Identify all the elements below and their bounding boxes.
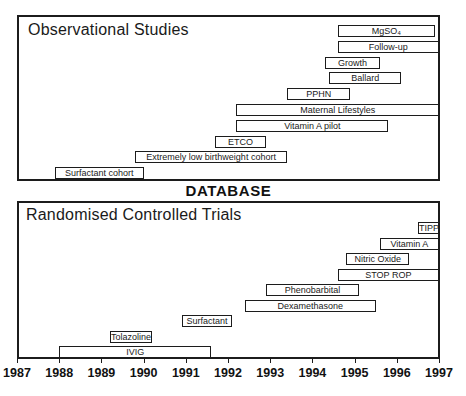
x-axis-tick <box>59 358 60 363</box>
timeline-bar-stop-rop: STOP ROP <box>338 269 439 281</box>
x-axis-tick <box>144 358 145 363</box>
x-tick-label: 1989 <box>87 366 115 380</box>
timeline-bar-maternal-lifestyles: Maternal Lifestyles <box>236 104 439 116</box>
randomised-controlled-trials-title: Randomised Controlled Trials <box>26 206 241 224</box>
timeline-bar-extremely-low-birthweight-cohort: Extremely low birthweight cohort <box>135 151 287 163</box>
x-axis-tick <box>312 358 313 363</box>
timeline-figure: Observational Studies DATABASE Randomise… <box>0 0 466 396</box>
x-axis-tick <box>101 358 102 363</box>
x-tick-label: 1995 <box>341 366 369 380</box>
x-tick-label: 1988 <box>45 366 73 380</box>
x-axis-tick <box>439 358 440 363</box>
timeline-bar-pphn: PPHN <box>287 88 350 100</box>
timeline-bar-surfactant-cohort: Surfactant cohort <box>55 167 144 179</box>
timeline-bar-tolazoline: Tolazoline <box>110 331 152 343</box>
timeline-bar-dexamethasone: Dexamethasone <box>245 300 376 312</box>
timeline-bar-growth: Growth <box>325 57 380 69</box>
timeline-bar-tipp: TIPP <box>418 222 439 234</box>
x-axis-tick <box>397 358 398 363</box>
timeline-bar-ballard: Ballard <box>329 72 401 84</box>
x-axis-tick <box>270 358 271 363</box>
x-tick-label: 1990 <box>130 366 158 380</box>
x-axis-tick <box>355 358 356 363</box>
timeline-bar-phenobarbital: Phenobarbital <box>266 284 359 296</box>
x-tick-label: 1991 <box>172 366 200 380</box>
x-axis-tick <box>228 358 229 363</box>
timeline-bar-surfactant: Surfactant <box>182 315 233 327</box>
x-tick-label: 1992 <box>214 366 242 380</box>
timeline-bar-mgso: MgSO₄ <box>338 25 435 37</box>
x-tick-label: 1994 <box>298 366 326 380</box>
observational-studies-title: Observational Studies <box>28 21 189 39</box>
x-tick-label: 1997 <box>425 366 453 380</box>
x-tick-label: 1996 <box>383 366 411 380</box>
x-tick-label: 1993 <box>256 366 284 380</box>
database-divider-label: DATABASE <box>17 182 440 199</box>
timeline-bar-vitamin-a-pilot: Vitamin A pilot <box>236 120 388 132</box>
timeline-bar-vitamin-a: Vitamin A <box>380 238 439 250</box>
x-axis-tick <box>17 358 18 363</box>
x-tick-label: 1987 <box>3 366 31 380</box>
timeline-bar-ivig: IVIG <box>59 346 211 358</box>
timeline-bar-etco: ETCO <box>215 136 266 148</box>
timeline-bar-follow-up: Follow-up <box>338 41 439 53</box>
timeline-bar-nitric-oxide: Nitric Oxide <box>346 253 409 265</box>
x-axis-tick <box>186 358 187 363</box>
